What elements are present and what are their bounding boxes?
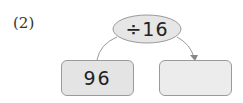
input-box: 96 — [61, 60, 134, 96]
operation-text: ÷16 — [113, 15, 181, 43]
answer-box[interactable] — [159, 60, 232, 96]
